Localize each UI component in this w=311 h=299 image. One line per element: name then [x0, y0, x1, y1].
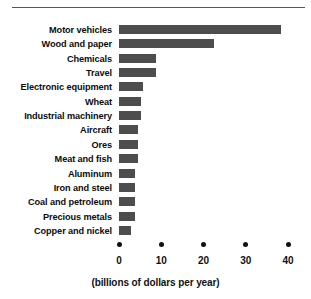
x-axis-tick-dot — [117, 242, 122, 247]
x-axis-tick-dot — [159, 242, 164, 247]
x-axis-tick-label: 10 — [156, 255, 167, 266]
x-axis-tick-dot — [201, 242, 206, 247]
x-axis-tick-label: 30 — [240, 255, 251, 266]
x-axis-tick-dot — [286, 242, 291, 247]
x-axis-tick-label: 20 — [198, 255, 209, 266]
x-axis-tick-label: 40 — [282, 255, 293, 266]
x-axis-tick-label: 0 — [116, 255, 122, 266]
chart-figure: Motor vehiclesWood and paperChemicalsTra… — [0, 0, 311, 299]
x-axis: 010203040 — [0, 0, 311, 299]
x-axis-tick-dot — [243, 242, 248, 247]
x-axis-caption: (billions of dollars per year) — [0, 277, 311, 288]
